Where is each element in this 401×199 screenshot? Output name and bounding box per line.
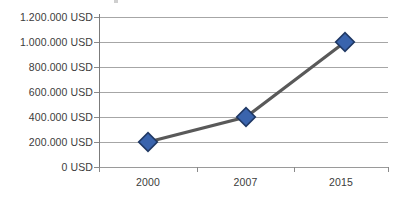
x-tick-label-2015: 2015 [294,176,388,188]
series-line [148,42,345,142]
x-tick-label-2007: 2007 [197,176,294,188]
x-tick-label-2000: 2000 [99,176,197,188]
data-series-layer [0,0,401,199]
data-point-2000 [139,133,158,152]
line-chart: 1.200.000 USD 1.000.000 USD 800.000 USD … [0,0,401,199]
